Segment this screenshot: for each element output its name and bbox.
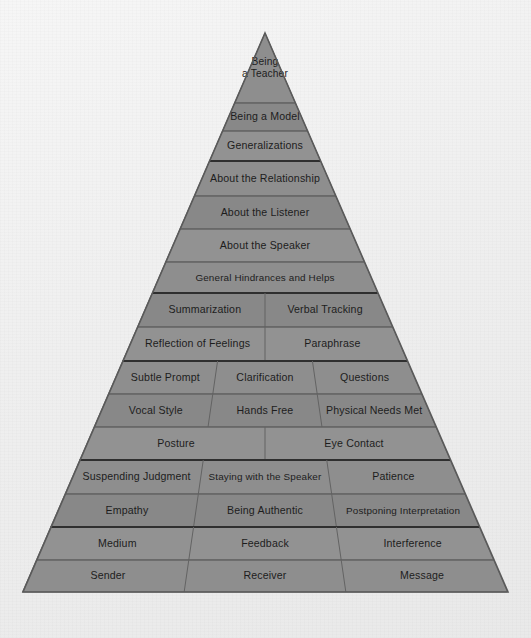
pyramid-cell-label: Paraphrase (304, 337, 360, 349)
pyramid-cell-label: Being Authentic (227, 503, 303, 515)
pyramid-cell-label: Medium (98, 536, 137, 548)
pyramid-cell-label: Clarification (236, 370, 293, 382)
communication-pyramid-figure: Beinga TeacherBeing a ModelGeneralizatio… (0, 0, 531, 638)
pyramid-cell-label: Postponing Interpretation (346, 504, 460, 515)
pyramid-cell-label: Verbal Tracking (287, 303, 362, 315)
pyramid-cell-label: Feedback (241, 536, 289, 548)
pyramid-cell-label: Eye Contact (324, 436, 383, 448)
pyramid-cell-label: Patience (372, 470, 414, 482)
pyramid-cell-label: Sender (90, 569, 125, 581)
pyramid-cell-label: Physical Needs Met (326, 403, 422, 415)
pyramid-cell-label: Beinga Teacher (242, 56, 288, 79)
pyramid-cell-label: Hands Free (237, 403, 294, 415)
pyramid-cell-label: Reflection of Feelings (145, 337, 250, 349)
pyramid-cell-label: About the Listener (221, 205, 310, 217)
pyramid-cell-label: Summarization (169, 303, 242, 315)
pyramid-cell-label: Being a Model (230, 110, 300, 122)
pyramid-cell-label: About the Speaker (220, 238, 311, 250)
pyramid-cell-label: Questions (340, 370, 389, 382)
pyramid-cell-label: Posture (157, 436, 195, 448)
pyramid-cell-label: Staying with the Speaker (209, 471, 322, 482)
pyramid-cell-label: Empathy (105, 503, 148, 515)
pyramid-cell-label: Generalizations (227, 139, 303, 151)
pyramid-cell-label: Suspending Judgment (82, 470, 190, 482)
pyramid-cell-label: Vocal Style (129, 403, 183, 415)
pyramid-cell-label: About the Relationship (210, 171, 320, 183)
pyramid-cell-label: Message (400, 569, 444, 581)
pyramid-cell-label: General Hindrances and Helps (195, 271, 334, 282)
pyramid-cell-label: Receiver (243, 569, 286, 581)
pyramid-cell-label: Interference (383, 536, 441, 548)
pyramid-canvas: Beinga TeacherBeing a ModelGeneralizatio… (0, 0, 531, 638)
pyramid-cell-label: Subtle Prompt (131, 370, 200, 382)
